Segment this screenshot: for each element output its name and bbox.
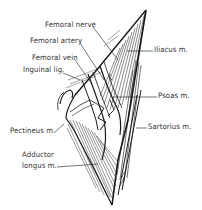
anatomy-drawing bbox=[0, 0, 202, 210]
label-pectineus-muscle: Pectineus m. bbox=[10, 127, 55, 135]
label-iliacus-muscle: Iliacus m. bbox=[154, 46, 188, 54]
label-inguinal-ligament: Inguinal lig. bbox=[23, 66, 64, 74]
leader-lines bbox=[55, 27, 157, 167]
label-adductor-longus-line1: Adductor bbox=[22, 151, 54, 159]
label-femoral-artery: Femoral artery bbox=[30, 37, 82, 45]
label-femoral-vein: Femoral vein bbox=[32, 54, 78, 62]
femoral-triangle-illustration: Femoral nerve Femoral artery Femoral vei… bbox=[0, 0, 202, 210]
label-adductor-longus-line2: longus m. bbox=[22, 162, 57, 170]
label-sartorius-muscle: Sartorius m. bbox=[148, 123, 191, 131]
label-psoas-muscle: Psoas m. bbox=[158, 92, 190, 100]
label-femoral-nerve: Femoral nerve bbox=[45, 21, 96, 29]
